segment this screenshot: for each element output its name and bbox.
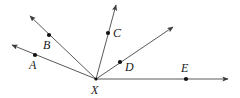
- point-dot-A: [33, 53, 37, 57]
- point-label-C: C: [113, 27, 121, 39]
- point-label-A: A: [29, 59, 36, 71]
- ray-XB: [30, 16, 96, 79]
- vertex-dot-X: [94, 77, 97, 80]
- diagram-canvas: A B C D E X: [0, 0, 240, 98]
- point-label-B: B: [43, 39, 50, 51]
- point-dot-D: [118, 60, 122, 64]
- point-dot-E: [184, 77, 188, 81]
- vertex-label-X: X: [91, 84, 98, 96]
- points-group: [33, 31, 188, 81]
- point-dot-B: [47, 33, 51, 37]
- ray-XA: [12, 45, 96, 79]
- point-label-D: D: [125, 61, 134, 73]
- point-label-E: E: [181, 62, 188, 74]
- point-dot-C: [106, 31, 110, 35]
- geometry-figure: [0, 0, 240, 98]
